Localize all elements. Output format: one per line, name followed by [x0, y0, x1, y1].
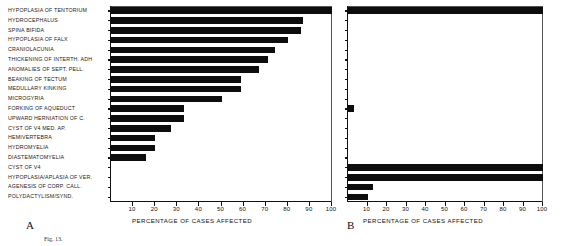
category-label: POLYDACTYLISM/SYND. [8, 192, 110, 202]
bar-row [348, 143, 543, 153]
bar-row [348, 173, 543, 183]
bar-row [111, 35, 332, 45]
panel-letter-b: B [347, 219, 354, 231]
y-axis-tick [108, 177, 112, 178]
bar-row [348, 192, 543, 202]
y-axis-tick [345, 59, 349, 60]
bar-row [111, 163, 332, 173]
y-axis-tick [345, 30, 349, 31]
bar-row [348, 6, 543, 16]
y-axis-tick [108, 187, 112, 188]
bar-row [111, 173, 332, 183]
panel-b-x-axis-title: PERCENTAGE OF CASES AFFECTED [363, 217, 483, 224]
bar-row [348, 16, 543, 26]
bar [111, 154, 146, 161]
bar-row [111, 153, 332, 163]
y-axis-tick [345, 128, 349, 129]
category-label: HYPOPLASIA OF TENTORIUM [8, 6, 110, 16]
x-axis-tick-label: 90 [305, 206, 312, 212]
bar [111, 17, 303, 24]
bar-row [111, 16, 332, 26]
bar-row [111, 65, 332, 75]
panel-a-plot: 102030405060708090100 PERCENTAGE OF CASE… [110, 6, 332, 202]
category-label: CYST OF V4 MED. AP. [8, 124, 110, 134]
y-axis-tick [345, 20, 349, 21]
category-label: CYST OF V4 [8, 163, 110, 173]
bar-row [348, 124, 543, 134]
panel-a-x-axis-title: PERCENTAGE OF CASES AFFECTED [132, 217, 252, 224]
y-axis-tick [345, 50, 349, 51]
x-axis-tick-label: 40 [421, 206, 428, 212]
bar-row [348, 35, 543, 45]
bar-row [111, 75, 332, 85]
bar [111, 7, 332, 14]
x-axis-tick-label: 90 [519, 206, 526, 212]
bar-row [348, 45, 543, 55]
x-axis-tick-label: 10 [129, 206, 136, 212]
category-label: BEAKING OF TECTUM [8, 75, 110, 85]
bar-row [111, 124, 332, 134]
x-axis-tick-label: 100 [537, 206, 548, 212]
bar-row [348, 84, 543, 94]
y-axis-tick [345, 69, 349, 70]
x-axis-tick-label: 30 [173, 206, 180, 212]
bar-row [111, 143, 332, 153]
bar-row [111, 45, 332, 55]
bar [111, 145, 155, 152]
bar-row [111, 26, 332, 36]
x-axis-tick-label: 70 [480, 206, 487, 212]
bar-row [348, 163, 543, 173]
y-axis-tick [345, 138, 349, 139]
x-axis-tick-label: 50 [441, 206, 448, 212]
x-axis-tick-label: 80 [499, 206, 506, 212]
x-axis-tick-label: 100 [326, 206, 337, 212]
x-axis-tick-label: 60 [239, 206, 246, 212]
x-axis-tick-label: 20 [382, 206, 389, 212]
category-label: UPWARD HERNIATION OF C. [8, 114, 110, 124]
panel-a-bar-rows [111, 6, 332, 202]
y-axis-tick [345, 79, 349, 80]
panel-letter-a: A [26, 219, 34, 231]
bar [348, 164, 543, 171]
category-label: AGENESIS OF CORP. CALL. [8, 182, 110, 192]
bar [111, 115, 184, 122]
bar [111, 86, 241, 93]
bar-row [348, 94, 543, 104]
x-axis-tick-label: 30 [402, 206, 409, 212]
bar [111, 37, 288, 44]
category-label: HYDROCEPHALUS [8, 16, 110, 26]
category-label: HEMIVERTEBRA [8, 133, 110, 143]
category-label: SPINA BIFIDA [8, 26, 110, 36]
bar-row [111, 55, 332, 65]
bar [111, 47, 275, 54]
x-axis-tick-label: 50 [217, 206, 224, 212]
category-label: HYDROMYELIA [8, 143, 110, 153]
bar-row [111, 6, 332, 16]
bar [111, 56, 268, 63]
y-axis-tick [345, 89, 349, 90]
category-label: FORKING OF AQUEDUCT [8, 104, 110, 114]
bar [348, 174, 543, 181]
category-label: CRANIOLACUNIA [8, 45, 110, 55]
x-axis-tick-label: 80 [283, 206, 290, 212]
bar-row [111, 94, 332, 104]
y-axis-tick [345, 157, 349, 158]
x-axis-tick-label: 10 [363, 206, 370, 212]
bar [111, 125, 171, 132]
bar [348, 105, 354, 112]
figure-caption: Fig. 13. [44, 236, 63, 242]
y-axis-tick [345, 99, 349, 100]
y-axis-tick [345, 40, 349, 41]
bar [348, 194, 368, 201]
bar-row [111, 84, 332, 94]
y-axis-tick [345, 148, 349, 149]
bar [111, 105, 184, 112]
bar-row [348, 104, 543, 114]
x-axis-tick-label: 20 [151, 206, 158, 212]
bar [111, 66, 259, 73]
category-label: DIASTEMATOMYELIA [8, 153, 110, 163]
bar-row [111, 182, 332, 192]
bar [111, 135, 155, 142]
x-axis-tick-label: 40 [195, 206, 202, 212]
category-label: MEDULLARY KINKING [8, 84, 110, 94]
